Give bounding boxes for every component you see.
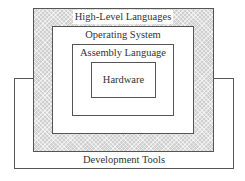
assembly-language-label: Assembly Language — [72, 47, 174, 59]
operating-system-label: Operating System — [52, 29, 194, 41]
hardware-label: Hardware — [91, 74, 156, 86]
development-tools-label: Development Tools — [14, 154, 234, 166]
high-level-languages-label: High-Level Languages — [73, 11, 173, 23]
